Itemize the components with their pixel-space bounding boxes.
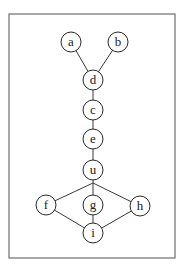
node-label: a [68,34,74,49]
node-label: d [90,72,97,87]
node-b: b [108,32,128,52]
node-a: a [61,32,81,52]
nodes-layer: abdceufghi [36,32,150,243]
node-f: f [36,195,56,215]
node-i: i [83,223,103,243]
node-label: g [90,197,97,212]
node-label: i [91,225,95,240]
graph-diagram: abdceufghi [0,0,184,270]
node-label: h [137,198,144,213]
node-e: e [83,129,103,149]
node-label: e [90,131,96,146]
node-label: u [90,162,97,177]
node-label: b [115,34,122,49]
node-label: c [90,102,96,117]
node-d: d [83,70,103,90]
node-h: h [130,196,150,216]
node-c: c [83,100,103,120]
node-g: g [83,195,103,215]
node-u: u [83,160,103,180]
node-label: f [44,197,49,212]
